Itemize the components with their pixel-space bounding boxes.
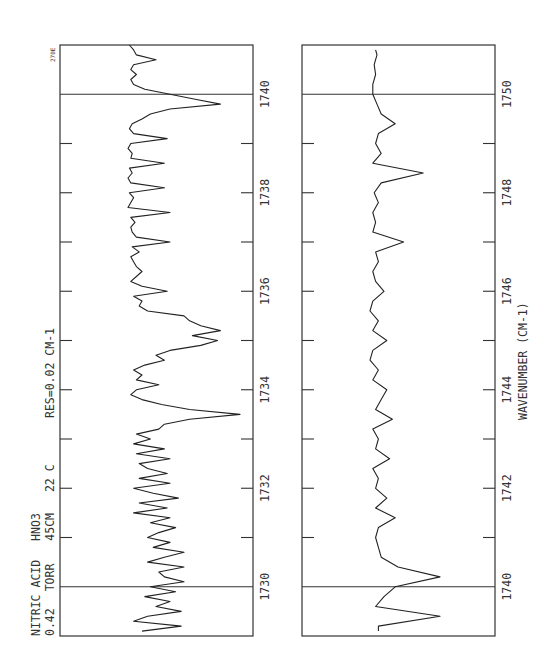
temperature: 22 C	[43, 464, 57, 492]
right-panel-tick-labels: 174017421744174617481750	[500, 80, 514, 600]
sample-name-label: NITRIC ACID HNO3	[29, 513, 43, 636]
left-spectrum-line	[128, 45, 240, 631]
tick-label: 1742	[500, 474, 514, 502]
tick-label: 1730	[258, 573, 272, 601]
tick-label: 1744	[500, 376, 514, 404]
tick-label: 1734	[258, 376, 272, 404]
tick-label: 1732	[258, 474, 272, 502]
tick-label: 1740	[500, 573, 514, 601]
right-panel-frame	[302, 45, 495, 636]
tick-label: 1748	[500, 179, 514, 207]
tick-label: 1738	[258, 179, 272, 207]
path-length: 45CM	[43, 513, 57, 541]
left-panel-ticks	[60, 94, 253, 587]
pressure-unit: TORR	[43, 564, 57, 592]
compound-name: NITRIC ACID	[29, 560, 43, 636]
tick-label: 1740	[258, 80, 272, 108]
compound-formula: HNO3	[29, 513, 43, 541]
right-spectrum-line	[370, 50, 440, 631]
corner-label: 270E	[49, 47, 56, 62]
spectrum-figure: 270E 173017321734173617381740 1740174217…	[0, 0, 555, 670]
conditions-label: 0.42 TORR 45CM 22 C	[43, 464, 57, 636]
tick-label: 1750	[500, 80, 514, 108]
left-panel-tick-labels: 173017321734173617381740	[258, 80, 272, 600]
resolution-label: RES=0.02 CM-1	[43, 328, 57, 418]
pressure-value: 0.42	[43, 608, 57, 636]
x-axis-title: WAVENUMBER (CM-1)	[516, 302, 530, 420]
left-panel-frame	[60, 45, 253, 636]
right-panel: 174017421744174617481750	[302, 45, 514, 636]
tick-label: 1736	[258, 277, 272, 305]
tick-label: 1746	[500, 277, 514, 305]
left-panel: 173017321734173617381740	[60, 45, 272, 636]
